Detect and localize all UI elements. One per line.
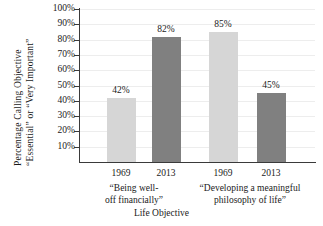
bar: [257, 93, 286, 162]
bar: [152, 37, 181, 162]
y-axis-tick-label: 10%: [58, 142, 75, 152]
bar-value-label: 42%: [101, 85, 141, 95]
bar-value-label: 82%: [146, 24, 186, 34]
x-axis-group-label: “Developing a meaningfulphilosophy of li…: [184, 182, 316, 206]
y-axis-tick-label: 100%: [53, 4, 75, 14]
x-axis-line: [79, 162, 316, 163]
y-axis-tick-label: 80%: [58, 35, 75, 45]
y-axis-tick-label: 90%: [58, 19, 75, 29]
x-axis-group-label-line-1: “Developing a meaningful: [184, 182, 316, 194]
x-axis-tick-label: 2013: [249, 168, 293, 178]
y-axis-tick-label: 70%: [58, 50, 75, 60]
x-axis-group-label-line-1: “Being well-: [88, 182, 180, 194]
y-axis-title-line-1: Percentage Calling Objective: [13, 49, 23, 166]
y-axis-tick-label: 50%: [58, 81, 75, 91]
x-axis-tick-label: 1969: [99, 168, 143, 178]
bar: [209, 32, 238, 162]
y-axis-tick-label: 30%: [58, 111, 75, 121]
bar-value-label: 85%: [203, 19, 243, 29]
y-axis-tick-labels: 10%20%30%40%50%60%70%80%90%100%: [30, 0, 78, 175]
bar-value-label: 45%: [251, 80, 291, 90]
x-axis-tick-label: 2013: [144, 168, 188, 178]
x-axis-title: Life Objective: [0, 208, 323, 218]
y-axis-tick-label: 20%: [58, 126, 75, 136]
x-axis-group-label-line-2: philosophy of life”: [184, 194, 316, 206]
x-axis-group-label: “Being well-off financially”: [88, 182, 180, 206]
bar-chart: Percentage Calling Objective “Essential”…: [0, 0, 323, 226]
x-axis-tick-label: 1969: [201, 168, 245, 178]
x-axis-group-label-line-2: off financially”: [88, 194, 180, 206]
y-axis-tick-label: 40%: [58, 96, 75, 106]
bar: [107, 98, 136, 162]
y-axis-title: Percentage Calling Objective “Essential”…: [0, 0, 30, 175]
y-axis-tick-label: 60%: [58, 65, 75, 75]
